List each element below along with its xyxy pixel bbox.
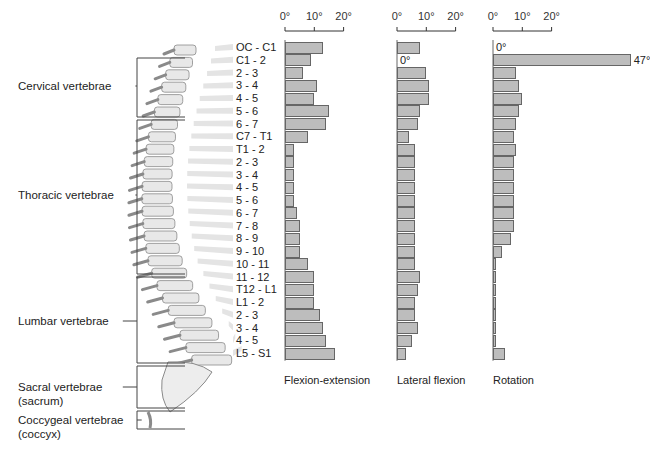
bar [493, 195, 514, 207]
vertebra-icon [148, 256, 182, 266]
bar [285, 207, 297, 219]
connector-wedge [215, 44, 233, 51]
region-label: Coccygeal vertebrae(coccyx) [18, 413, 123, 441]
spinous-process-icon [132, 162, 144, 166]
bar [285, 156, 294, 168]
region-label-text: Coccygeal vertebrae [18, 414, 123, 426]
bar [285, 67, 303, 79]
segment-label: L5 - S1 [236, 347, 271, 359]
spinous-process-icon [153, 310, 168, 314]
bar [493, 284, 496, 296]
bar [285, 80, 317, 92]
vertebra-icon [186, 343, 225, 353]
vertebra-icon [142, 206, 173, 216]
bar [285, 233, 300, 245]
bar [285, 322, 323, 334]
connector-wedge [211, 57, 233, 64]
connector-wedge [190, 221, 233, 229]
connector-wedge [229, 321, 233, 331]
bar [285, 169, 294, 181]
spinous-process-icon [134, 261, 148, 265]
chart-title: Rotation [493, 374, 534, 386]
segment-label: 6 - 7 [236, 207, 258, 219]
bar [285, 131, 308, 143]
bar [493, 131, 514, 143]
bar [285, 42, 323, 54]
segment-label: 9 - 10 [236, 245, 264, 257]
vertebra-icon [170, 57, 193, 67]
vertebra-icon [151, 119, 177, 129]
sacrum-icon [162, 362, 212, 412]
segment-label: T1 - 2 [236, 143, 265, 155]
vertebra-icon [162, 82, 186, 92]
bar [397, 246, 415, 258]
segment-label: 3 - 4 [236, 79, 258, 91]
connector-wedge [187, 196, 233, 203]
bar [493, 220, 514, 232]
bar [397, 258, 415, 270]
coccyx-icon [148, 412, 151, 428]
bar [397, 42, 420, 54]
bar [397, 67, 426, 79]
spinous-process-icon [147, 100, 158, 104]
x-axis [397, 27, 456, 31]
connector-wedge [191, 133, 233, 139]
bar [397, 220, 415, 232]
segment-label: 8 - 9 [236, 232, 258, 244]
connector-wedge [209, 284, 233, 293]
connector-wedge [198, 259, 233, 267]
bar [397, 271, 420, 283]
spinous-process-icon [132, 248, 146, 252]
bar [285, 54, 311, 66]
bar [493, 297, 496, 309]
value-annotation: 0° [496, 41, 507, 53]
bar [285, 195, 294, 207]
segment-label: 5 - 6 [236, 105, 258, 117]
bar [397, 144, 415, 156]
vertebra-icon [143, 169, 172, 179]
bar [493, 271, 496, 283]
bar [397, 322, 418, 334]
segment-label: C7 - T1 [236, 130, 272, 142]
vertebra-icon [146, 144, 174, 154]
axis-tick-label: 10° [306, 10, 323, 22]
value-annotation: 47° [634, 54, 650, 66]
segment-label: T12 - L1 [236, 283, 277, 295]
spinous-process-icon [148, 298, 163, 302]
connector-wedge [197, 108, 233, 114]
bar [493, 67, 516, 79]
spinous-process-icon [160, 62, 170, 66]
bar [493, 54, 631, 66]
bar [285, 144, 294, 156]
bar [397, 118, 418, 130]
bar [397, 309, 415, 321]
bar [397, 80, 429, 92]
spinous-process-icon [134, 149, 146, 153]
axis-tick-label: 0° [280, 10, 291, 22]
spinous-process-icon [164, 50, 174, 54]
spinous-process-icon [129, 224, 142, 228]
bar [397, 207, 415, 219]
bar [493, 233, 511, 245]
connector-wedge [203, 271, 233, 280]
region-label: Sacral vertebrae(sacrum) [18, 380, 102, 408]
region-bracket [137, 411, 185, 429]
spinous-process-icon [170, 348, 186, 352]
bar [493, 309, 496, 321]
bar [397, 156, 415, 168]
region-label-text: Cervical vertebrae [18, 80, 111, 92]
segment-label: 2 - 3 [236, 156, 258, 168]
vertebra-icon [143, 219, 175, 229]
region-label-subtext: (coccyx) [18, 428, 61, 440]
spinous-process-icon [164, 335, 180, 339]
spinous-process-icon [129, 211, 142, 215]
bar [493, 182, 514, 194]
bar [397, 93, 429, 105]
segment-label: 3 - 4 [236, 322, 258, 334]
connector-wedge [187, 171, 233, 178]
vertebra-icon [158, 95, 183, 105]
region-label: Thoracic vertebrae [18, 188, 114, 202]
bar [397, 195, 415, 207]
chart-title: Lateral flexion [397, 374, 466, 386]
region-label-text: Lumbar vertebrae [18, 315, 109, 327]
